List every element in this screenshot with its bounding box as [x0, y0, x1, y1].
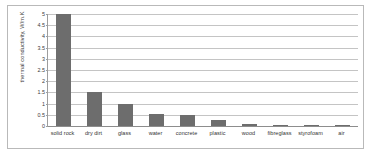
gridline	[48, 126, 358, 127]
y-axis-tick-label: 3	[30, 56, 45, 62]
chart-frame: thermal conductivity, W/m.K 54.543.532.5…	[7, 5, 364, 149]
bar	[242, 124, 257, 126]
bar-series	[48, 14, 358, 126]
bar-slot	[48, 14, 79, 126]
x-axis-category-labels: solid rockdry dirtglasswaterconcreteplas…	[47, 130, 357, 136]
x-axis-tick-label: plastic	[202, 130, 233, 136]
y-axis-tick-label: 3.5	[30, 45, 45, 51]
bar	[335, 125, 350, 126]
y-axis-tick-label: 1	[30, 101, 45, 107]
bar-slot	[203, 14, 234, 126]
x-axis-tick-label: solid rock	[47, 130, 78, 136]
bar-slot	[327, 14, 358, 126]
x-axis-tick-label: water	[140, 130, 171, 136]
x-axis-tick-label: wood	[233, 130, 264, 136]
x-axis-tick-label: styrofoam	[295, 130, 326, 136]
bar-slot	[79, 14, 110, 126]
x-axis-tick-label: dry dirt	[78, 130, 109, 136]
bar-slot	[172, 14, 203, 126]
y-axis-tick-label: 4.5	[30, 22, 45, 28]
x-axis-tick-label: fibreglass	[264, 130, 295, 136]
bar	[149, 114, 164, 126]
y-axis-tick-label: 5	[30, 11, 45, 17]
y-axis-tick-label: 2	[30, 78, 45, 84]
y-axis-title: thermal conductivity, W/m.K	[19, 0, 25, 99]
y-axis-tick-label: 0	[30, 123, 45, 129]
plot-area	[47, 14, 358, 126]
y-axis-tick-label: 4	[30, 33, 45, 39]
x-axis-tick-label: air	[326, 130, 357, 136]
bar	[118, 104, 133, 126]
bar	[56, 14, 71, 126]
x-axis-tick-label: concrete	[171, 130, 202, 136]
bar	[304, 125, 319, 126]
bar-slot	[296, 14, 327, 126]
bar	[87, 92, 102, 126]
y-axis-tick-label: 0.5	[30, 112, 45, 118]
bar-slot	[265, 14, 296, 126]
y-axis-tickmark	[46, 126, 48, 127]
y-axis-tick-label: 1.5	[30, 89, 45, 95]
x-axis-tick-label: glass	[109, 130, 140, 136]
y-axis-tick-labels: 54.543.532.521.510.50	[30, 14, 45, 126]
bar-slot	[110, 14, 141, 126]
bar-slot	[141, 14, 172, 126]
y-axis-tick-label: 2.5	[30, 67, 45, 73]
bar	[273, 125, 288, 126]
bar-slot	[234, 14, 265, 126]
bar	[180, 115, 195, 126]
bar	[211, 120, 226, 126]
